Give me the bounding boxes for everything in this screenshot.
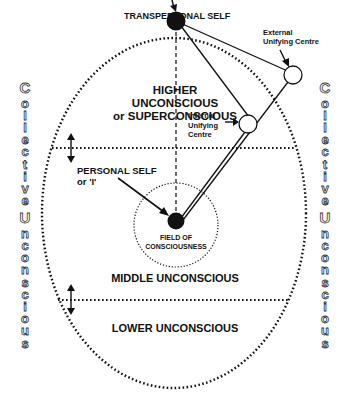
label-higher-unconscious: HIGHER UNCONSCIOUS or SUPERCONSCIOUS bbox=[110, 84, 240, 123]
side-letter: e bbox=[21, 193, 28, 208]
psyche-egg-diagram: TRANSPERSONAL SELF HIGHER UNCONSCIOUS or… bbox=[0, 0, 351, 403]
side-letter: s bbox=[21, 336, 28, 351]
side-letter: e bbox=[321, 193, 328, 208]
side-letter: C bbox=[320, 79, 331, 96]
side-letter: s bbox=[321, 336, 328, 351]
side-letter: U bbox=[20, 209, 31, 226]
label-lower-unconscious: LOWER UNCONSCIOUS bbox=[90, 322, 260, 334]
label-external-line2: Unifying Centre bbox=[263, 37, 319, 46]
label-middle-unconscious: MIDDLE UNCONSCIOUS bbox=[90, 272, 260, 284]
label-higher-line1: HIGHER UNCONSCIOUS bbox=[110, 84, 240, 110]
label-internal-line2: Unifying bbox=[188, 121, 218, 131]
label-internal-line1: Internal bbox=[188, 111, 218, 121]
label-external-unifying-centre: External Unifying Centre bbox=[263, 28, 319, 46]
label-field-line1: FIELD OF bbox=[136, 234, 216, 243]
label-higher-line2: or SUPERCONSCIOUS bbox=[110, 110, 240, 123]
label-personal-self-line1: PERSONAL SELF bbox=[77, 165, 157, 176]
side-letter: U bbox=[320, 209, 331, 226]
label-personal-self: PERSONAL SELF or 'I' bbox=[77, 165, 157, 187]
side-letter: C bbox=[20, 79, 31, 96]
label-personal-self-line2: or 'I' bbox=[77, 176, 157, 187]
label-transpersonal-self: TRANSPERSONAL SELF bbox=[124, 11, 230, 21]
label-field-of-consciousness: FIELD OF CONSCIOUSNESS bbox=[136, 234, 216, 251]
label-field-line2: CONSCIOUSNESS bbox=[136, 243, 216, 252]
label-internal-unifying-centre: Internal Unifying Centre bbox=[188, 111, 218, 140]
label-external-line1: External bbox=[263, 28, 319, 37]
labels-layer: TRANSPERSONAL SELF HIGHER UNCONSCIOUS or… bbox=[0, 0, 351, 403]
label-internal-line3: Centre bbox=[188, 130, 218, 140]
